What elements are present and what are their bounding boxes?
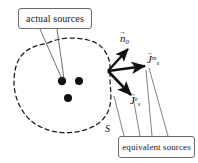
callout-equivalent-sources: equivalent sources <box>118 136 195 158</box>
vector-accent-jse: →J <box>130 95 135 106</box>
leader-line-equivalent-a <box>114 96 124 136</box>
vector-jse-arrow <box>108 71 131 95</box>
vector-arrow-accent-icon: → <box>119 29 125 36</box>
leader-line-equivalent-c <box>146 70 152 136</box>
closed-surface-boundary <box>14 38 111 133</box>
figure-canvas: actual sources equivalent sources →n0 →J… <box>0 0 198 163</box>
vector-accent-jsm: →J <box>147 54 152 65</box>
vector-arrow-accent-icon: → <box>129 91 134 98</box>
source-dot-2 <box>75 77 83 85</box>
vector-label-jse: →Jes <box>130 95 140 108</box>
leader-line-actual-b <box>57 29 64 79</box>
vector-subscript-n0: 0 <box>126 38 129 45</box>
callout-actual-sources: actual sources <box>18 8 92 29</box>
vector-subscript-jse: s <box>138 100 141 107</box>
callout-actual-sources-label: actual sources <box>26 13 84 24</box>
source-dot-3 <box>64 94 72 102</box>
leader-line-equivalent-d <box>149 68 168 136</box>
vector-label-jsm: →Jms <box>147 54 159 67</box>
surface-label-s: S <box>105 124 110 134</box>
vector-arrow-accent-icon: → <box>146 50 151 57</box>
callout-equivalent-sources-label: equivalent sources <box>122 142 191 152</box>
vector-jsm-arrow <box>108 66 145 71</box>
vector-accent-n0: →n <box>120 33 126 44</box>
vector-label-n0: →n0 <box>120 33 129 46</box>
leader-line-actual-a <box>40 29 62 79</box>
vector-subscript-jsm: s <box>157 59 160 66</box>
